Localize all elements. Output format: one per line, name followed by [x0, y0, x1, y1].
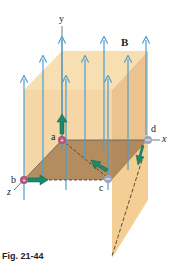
- point-label-a: a: [51, 132, 55, 142]
- y-axis-label: y: [59, 14, 64, 24]
- point-label-d: d: [151, 124, 156, 134]
- point-label-c: c: [99, 183, 103, 193]
- svg-text:+: +: [22, 177, 26, 184]
- field-label-b: B: [121, 37, 128, 48]
- x-axis-label: x: [162, 134, 166, 144]
- svg-text:+: +: [60, 137, 64, 144]
- point-label-b: b: [11, 175, 16, 185]
- z-axis-label: z: [7, 187, 11, 197]
- physics-diagram: + +: [0, 0, 186, 272]
- figure-caption: Fig. 21-44: [2, 251, 44, 261]
